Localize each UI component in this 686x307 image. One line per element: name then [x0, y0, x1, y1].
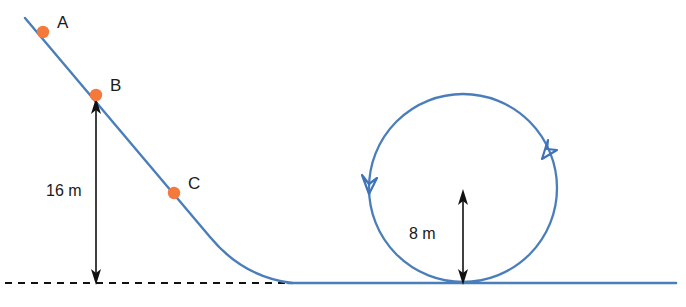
- point-marker-c: [168, 187, 180, 199]
- point-label-c: C: [188, 174, 200, 193]
- diagram-canvas: 16 m 8 m A B C: [0, 0, 686, 307]
- incline-height-label: 16 m: [46, 182, 82, 199]
- incline-track: [25, 18, 292, 283]
- point-label-a: A: [57, 13, 69, 32]
- loop-radius-label: 8 m: [409, 225, 436, 242]
- point-marker-b: [90, 89, 102, 101]
- point-marker-a: [37, 26, 49, 38]
- point-label-b: B: [110, 76, 121, 95]
- physics-diagram: 16 m 8 m A B C: [0, 0, 686, 307]
